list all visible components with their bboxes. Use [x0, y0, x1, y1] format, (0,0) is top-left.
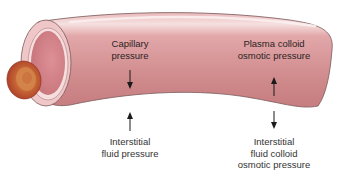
arrow-down-icon — [271, 111, 277, 129]
label-plasma-colloid-osmotic-pressure: Plasma colloid osmotic pressure — [234, 38, 314, 61]
label-interstitial-fluid-colloid-osmotic-pressure: Interstitial fluid colloid osmotic press… — [234, 136, 314, 171]
label-capillary-pressure: Capillary pressure — [98, 38, 162, 61]
label-interstitial-fluid-pressure: Interstitial fluid pressure — [90, 136, 170, 159]
arrow-up-icon — [127, 112, 133, 131]
